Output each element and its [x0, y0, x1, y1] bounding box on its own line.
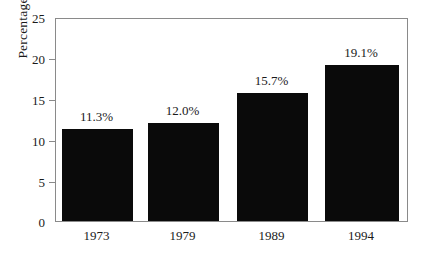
y-tick-label-5: 5 [5, 176, 45, 189]
bar-value-1989: 15.7% [236, 74, 307, 88]
y-tick-label-15: 15 [5, 94, 45, 107]
x-tick-label-1979: 1979 [147, 229, 218, 243]
x-tick-label-1989: 1989 [236, 229, 307, 243]
y-tick-label-20: 20 [5, 53, 45, 66]
y-tick-label-10: 10 [5, 135, 45, 148]
y-tick-label-25: 25 [5, 12, 45, 25]
bar-1979[interactable] [148, 123, 219, 221]
x-tick-label-1994: 1994 [324, 229, 398, 243]
bar-1994[interactable] [325, 65, 399, 221]
bar-1973[interactable] [62, 129, 133, 221]
bar-chart-figure: Percentage 25 20 15 10 5 0 11.3% 12.0% 1… [0, 0, 424, 258]
bar-value-1973: 11.3% [61, 110, 132, 124]
bar-1989[interactable] [237, 93, 308, 221]
y-tick-label-0: 0 [5, 216, 45, 229]
bar-value-1994: 19.1% [324, 46, 398, 60]
bar-value-1979: 12.0% [147, 104, 218, 118]
x-tick-label-1973: 1973 [61, 229, 132, 243]
